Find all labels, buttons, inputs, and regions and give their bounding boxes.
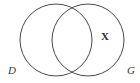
element-label-x: X [101,31,109,42]
set-circle-left [20,4,92,76]
set-label-right: G [127,65,135,76]
venn-diagram: D G X [0,0,140,83]
set-label-left: D [8,65,16,76]
set-circle-right [52,4,124,76]
venn-circles [0,0,140,83]
